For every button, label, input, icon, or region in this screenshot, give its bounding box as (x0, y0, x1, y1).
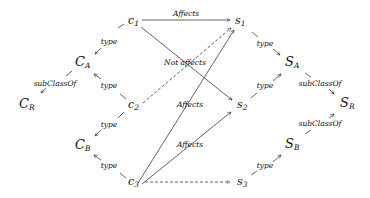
node-CA: CA (75, 54, 91, 70)
edge-SA-SR-part2 (329, 89, 334, 94)
svg-text:c1: c1 (128, 14, 139, 28)
svg-text:c3: c3 (128, 175, 139, 189)
label-subclassof-CA-CR: subClassOf (34, 79, 78, 88)
label-type-s2-SA: type (257, 81, 274, 90)
edge-s3-SB-part2 (273, 155, 281, 162)
node-c3: c3 (128, 175, 139, 189)
label-subclassof-SB-SR: subClassOf (299, 119, 343, 128)
label-type-c1-CA: type (101, 37, 118, 46)
svg-text:CR: CR (19, 96, 35, 112)
node-s2: s2 (237, 98, 248, 112)
node-s1: s1 (235, 14, 245, 28)
edge-CA-CR-part1 (66, 71, 72, 76)
svg-text:SA: SA (285, 54, 300, 70)
edge-CA-CR-part2 (41, 88, 46, 93)
ontology-diagram: Affects Not affects Affects Affects type… (0, 0, 370, 198)
label-type-c2-CB: type (101, 120, 118, 129)
svg-text:s3: s3 (237, 175, 248, 189)
edge-c2-CB-part1 (118, 112, 124, 118)
edge-c2-CB-part2 (95, 130, 101, 136)
label-type-c2-CA: type (101, 81, 118, 90)
node-CB: CB (75, 137, 91, 153)
node-SA: SA (285, 54, 300, 70)
label-type-c3-CB: type (101, 161, 118, 170)
label-affects-c1-s1: Affects (172, 9, 199, 18)
svg-text:SB: SB (285, 136, 300, 152)
edge-SB-SR-part1 (305, 130, 311, 134)
label-not-affects: Not affects (163, 58, 206, 67)
node-SB: SB (285, 136, 300, 152)
node-CR: CR (19, 96, 35, 112)
edge-s2-SA-part2 (273, 74, 281, 81)
edge-c1-CA-part1 (118, 24, 124, 28)
label-subclassof-SA-SR: subClassOf (299, 79, 343, 88)
label-affects-c3-s1: Affects (176, 100, 203, 109)
edge-c3-CB-part2 (94, 155, 101, 160)
node-s3: s3 (237, 175, 248, 189)
edge-SA-SR-part1 (305, 73, 311, 77)
edge-c1-CA-part2 (95, 48, 101, 54)
edge-s3-SB-part1 (251, 171, 257, 175)
node-SR: SR (340, 95, 355, 111)
label-type-s1-SA: type (257, 39, 274, 48)
edge-s1-SA-part2 (273, 49, 280, 55)
edge-s1-SA-part1 (252, 32, 258, 37)
svg-text:s2: s2 (237, 98, 248, 112)
svg-text:CB: CB (75, 137, 91, 153)
svg-text:c2: c2 (128, 98, 139, 112)
svg-text:SR: SR (340, 95, 355, 111)
edge-c3-CB-part1 (120, 173, 126, 178)
label-affects-c3-s2: Affects (176, 140, 203, 149)
svg-text:CA: CA (75, 54, 91, 70)
label-type-s3-SB: type (257, 161, 274, 170)
edge-s2-SA-part1 (251, 93, 257, 98)
edge-SB-SR-part2 (329, 114, 334, 118)
edge-c2-CA-part2 (94, 74, 101, 79)
node-c1: c1 (128, 14, 139, 28)
node-c2: c2 (128, 98, 139, 112)
edge-c2-CA-part1 (120, 94, 126, 99)
svg-text:s1: s1 (235, 14, 245, 28)
